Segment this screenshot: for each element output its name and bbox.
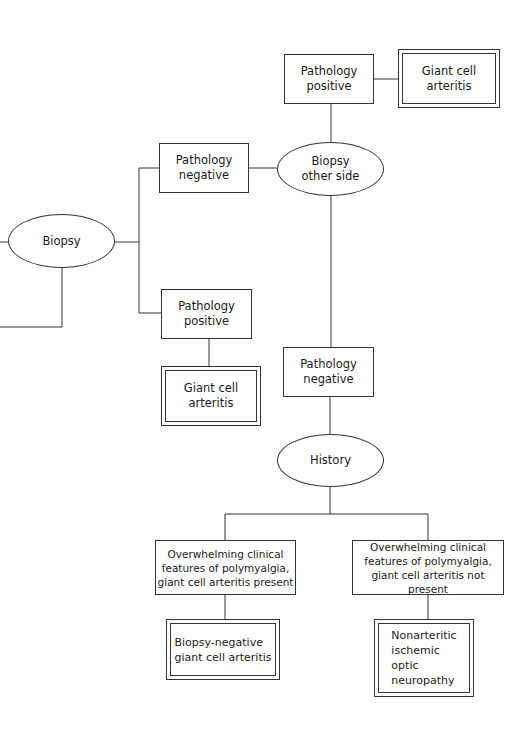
features-present-label: Overwhelming clinical features of polymy… bbox=[158, 547, 294, 589]
history-label: History bbox=[310, 453, 351, 468]
biopsy-label: Biopsy bbox=[42, 234, 80, 249]
biopsy-other-side-node: Biopsy other side bbox=[277, 142, 384, 196]
biopsy-other-side-label: Biopsy other side bbox=[302, 154, 360, 184]
pathology-positive-node-1: Pathology positive bbox=[161, 289, 252, 339]
naion-label: Nonarteritic ischemic optic neuropathy bbox=[391, 628, 456, 688]
pathology-negative-node-2: Pathology negative bbox=[283, 347, 374, 397]
pathology-positive-label-1: Pathology positive bbox=[178, 299, 235, 329]
pathology-negative-label-1: Pathology negative bbox=[176, 153, 233, 183]
features-absent-label: Overwhelming clinical features of polymy… bbox=[353, 540, 503, 596]
history-node: History bbox=[277, 434, 384, 487]
pathology-negative-node-1: Pathology negative bbox=[159, 143, 249, 193]
pathology-positive-label-2: Pathology positive bbox=[301, 64, 358, 94]
biopsy-negative-gca-node: Biopsy-negative giant cell arteritis bbox=[166, 619, 280, 680]
giant-cell-arteritis-label-1: Giant cell arteritis bbox=[184, 381, 238, 411]
giant-cell-arteritis-node-1: Giant cell arteritis bbox=[161, 366, 261, 426]
pathology-negative-label-2: Pathology negative bbox=[300, 357, 357, 387]
features-absent-node: Overwhelming clinical features of polymy… bbox=[352, 540, 504, 595]
biopsy-negative-gca-label: Biopsy-negative giant cell arteritis bbox=[174, 635, 271, 665]
giant-cell-arteritis-node-2: Giant cell arteritis bbox=[398, 49, 500, 108]
features-present-node: Overwhelming clinical features of polymy… bbox=[155, 540, 296, 595]
naion-node: Nonarteritic ischemic optic neuropathy bbox=[374, 619, 474, 697]
giant-cell-arteritis-label-2: Giant cell arteritis bbox=[422, 64, 476, 94]
pathology-positive-node-2: Pathology positive bbox=[284, 54, 374, 104]
biopsy-node: Biopsy bbox=[8, 214, 115, 268]
